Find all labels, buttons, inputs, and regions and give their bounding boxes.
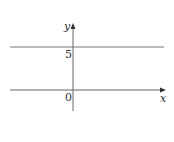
origin-label: 0 [65, 91, 72, 104]
tick-label-5: 5 [65, 48, 72, 61]
chart-canvas: y 5 0 x [0, 0, 174, 142]
x-axis-label: x [160, 92, 167, 105]
y-axis-arrow-icon [71, 23, 76, 29]
y-axis-label: y [63, 20, 71, 33]
